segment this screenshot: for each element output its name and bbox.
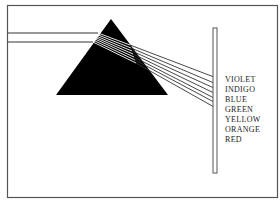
incoming-white-light-beam xyxy=(8,33,98,42)
label-green: GREEN xyxy=(225,105,253,115)
label-indigo: INDIGO xyxy=(225,85,255,95)
label-red: RED xyxy=(225,135,242,145)
label-yellow: YELLOW xyxy=(225,115,261,125)
label-blue: BLUE xyxy=(225,95,247,105)
projection-screen xyxy=(213,28,217,173)
label-orange: ORANGE xyxy=(225,125,260,135)
label-violet: VIOLET xyxy=(225,75,256,85)
